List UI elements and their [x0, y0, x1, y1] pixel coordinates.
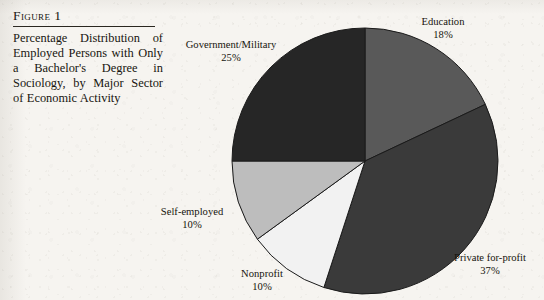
- pie-label-government-military-name: Government/Military: [186, 39, 277, 50]
- pie-label-government-military-value: 25%: [166, 52, 296, 65]
- pie-label-self-employed-name: Self-employed: [161, 206, 223, 217]
- pie-label-private-for-profit-name: Private for-profit: [454, 252, 526, 263]
- pie-label-government-military: Government/Military 25%: [166, 39, 296, 64]
- pie-label-education-value: 18%: [396, 29, 490, 42]
- pie-label-nonprofit: Nonprofit 10%: [222, 268, 302, 293]
- pie-label-self-employed: Self-employed 10%: [142, 206, 242, 231]
- pie-label-education: Education 18%: [396, 16, 490, 41]
- pie-label-self-employed-value: 10%: [142, 219, 242, 232]
- pie-label-private-for-profit-value: 37%: [440, 265, 540, 278]
- pie-label-nonprofit-value: 10%: [222, 281, 302, 294]
- scanned-page: Figure 1 Percentage Distribution of Empl…: [0, 0, 544, 300]
- pie-label-nonprofit-name: Nonprofit: [241, 268, 283, 279]
- pie-chart: Education 18% Government/Military 25% Pr…: [0, 0, 544, 300]
- pie-label-education-name: Education: [422, 16, 465, 27]
- pie-label-private-for-profit: Private for-profit 37%: [440, 252, 540, 277]
